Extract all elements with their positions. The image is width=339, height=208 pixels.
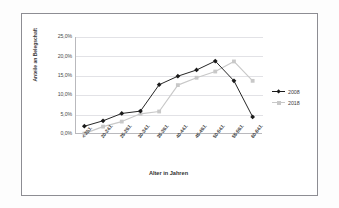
data-point	[175, 74, 180, 79]
data-point	[194, 68, 199, 73]
data-point	[101, 125, 105, 129]
legend-swatch-icon	[272, 99, 285, 106]
legend-item-2008[interactable]: 2008	[272, 86, 316, 97]
legend-swatch-icon	[272, 88, 285, 95]
data-point	[232, 60, 236, 64]
y-axis-tick-labels: 0,0%5,0%10,0%15,0%20,0%25,0%	[36, 37, 72, 134]
chart-screenshot: Anteile an Belegschaft 0,0%5,0%10,0%15,0…	[0, 0, 339, 208]
data-point	[195, 76, 199, 80]
y-axis-tick: 5,0%	[38, 112, 72, 117]
x-axis-tick-labels: < 20J.20-24J.25-29J.30-34J.35-39J.40-44J…	[75, 136, 262, 162]
data-point	[176, 83, 180, 87]
y-axis-tick: 10,0%	[38, 92, 72, 97]
chart-legend: 20082018	[272, 86, 316, 108]
y-axis-tick: 25,0%	[38, 34, 72, 39]
data-point	[157, 110, 161, 114]
y-axis-tick: 20,0%	[38, 54, 72, 59]
data-point	[251, 79, 255, 83]
data-point	[101, 118, 106, 123]
y-axis-tick: 0,0%	[38, 131, 72, 136]
y-axis-tick: 15,0%	[38, 73, 72, 78]
legend-item-2018[interactable]: 2018	[272, 97, 316, 108]
data-point	[120, 120, 124, 124]
legend-label: 2018	[288, 100, 300, 106]
x-axis-title: Alter in Jahren	[75, 170, 262, 176]
data-point	[213, 70, 217, 74]
legend-label: 2008	[288, 89, 300, 95]
